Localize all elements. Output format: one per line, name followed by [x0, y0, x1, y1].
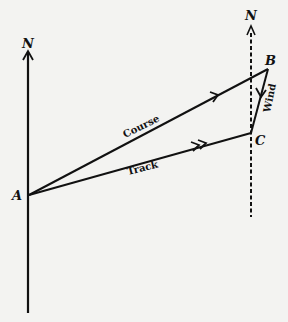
- left-north-label: N: [21, 36, 35, 51]
- course-line: [29, 69, 268, 195]
- track-label: Track: [126, 158, 160, 177]
- point-b-label: B: [264, 53, 276, 68]
- right-north-label: N: [244, 8, 258, 23]
- wind-triangle-diagram: N N A B C Course Track Wind: [0, 0, 288, 322]
- point-c-label: C: [255, 133, 266, 148]
- diagram-canvas: N N A B C Course Track Wind: [0, 0, 288, 322]
- point-a-label: A: [10, 188, 22, 203]
